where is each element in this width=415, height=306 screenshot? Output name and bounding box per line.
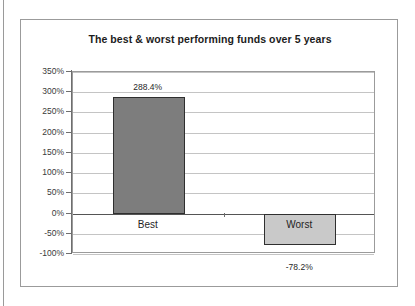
- y-tick-mark: [66, 253, 71, 254]
- y-tick-label: -100%: [24, 248, 64, 258]
- value-label-worst: -78.2%: [254, 262, 344, 272]
- gridline: [73, 254, 374, 255]
- bar-best: [113, 97, 185, 214]
- y-tick-label: 250%: [24, 106, 64, 116]
- gridline: [73, 92, 374, 93]
- y-tick-mark: [66, 213, 71, 214]
- y-tick-label: 300%: [24, 86, 64, 96]
- y-tick-mark: [66, 233, 71, 234]
- y-tick-label: 100%: [24, 167, 64, 177]
- page-edge-rule: [3, 0, 4, 306]
- y-tick-mark: [66, 91, 71, 92]
- category-label-best: Best: [103, 219, 193, 230]
- y-tick-label: 350%: [24, 66, 64, 76]
- y-tick-mark: [66, 172, 71, 173]
- y-tick-mark: [66, 132, 71, 133]
- y-tick-label: -50%: [24, 228, 64, 238]
- y-tick-mark: [66, 192, 71, 193]
- chart-frame: The best & worst performing funds over 5…: [20, 19, 398, 287]
- category-label-worst: Worst: [254, 219, 344, 230]
- y-tick-label: 50%: [24, 187, 64, 197]
- y-tick-mark: [66, 152, 71, 153]
- gridline: [73, 72, 374, 73]
- y-tick-label: 150%: [24, 147, 64, 157]
- y-tick-label: 200%: [24, 127, 64, 137]
- y-tick-mark: [66, 71, 71, 72]
- y-tick-mark: [66, 111, 71, 112]
- category-axis-tick: [224, 213, 225, 217]
- y-tick-label: 0%: [24, 208, 64, 218]
- y-axis-tick-labels: 350%300%250%200%150%100%50%0%-50%-100%: [21, 20, 64, 288]
- chart-title: The best & worst performing funds over 5…: [21, 33, 399, 45]
- value-label-best: 288.4%: [103, 82, 193, 92]
